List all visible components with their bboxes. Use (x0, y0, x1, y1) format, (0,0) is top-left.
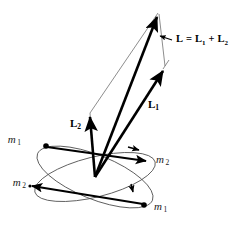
orbit-2-axis-line (32, 186, 143, 204)
vector-L2 (90, 117, 95, 177)
vector-label-L1: L1 (148, 98, 159, 112)
diagram-canvas: L=L1+L2 L1 L2 m1 m2 m2 m1 (0, 0, 237, 226)
mass-dot-m1-bottom-right (141, 202, 147, 208)
mass-label-m2-right: m2 (156, 153, 169, 167)
orbit-direction-indicators (128, 147, 139, 192)
orbit-2-direction-arrow (131, 184, 133, 192)
mass-dot-m2-lower-left (28, 184, 31, 187)
orbit-1-axis-line (47, 147, 146, 161)
orbit-2-major-axis (28, 184, 146, 207)
mass-label-m2-lower-left: m2 (13, 176, 26, 190)
mass-label-m1-bottom-right: m1 (154, 200, 167, 214)
equation-label: L=L1+L2 (176, 33, 229, 46)
vector-label-L2: L2 (70, 117, 81, 131)
mass-label-m1-upper-left: m1 (8, 133, 21, 147)
mass-dot-m1-upper-left (43, 143, 49, 149)
angular-momentum-vector-diagram: L=L1+L2 L1 L2 m1 m2 m2 m1 (0, 0, 237, 226)
construction-line-shoulder (163, 60, 169, 69)
vector-L2-shaft (90, 117, 95, 177)
orbit-1-direction-arrow (128, 147, 139, 150)
construction-line-from-L1-tip (159, 14, 165, 66)
